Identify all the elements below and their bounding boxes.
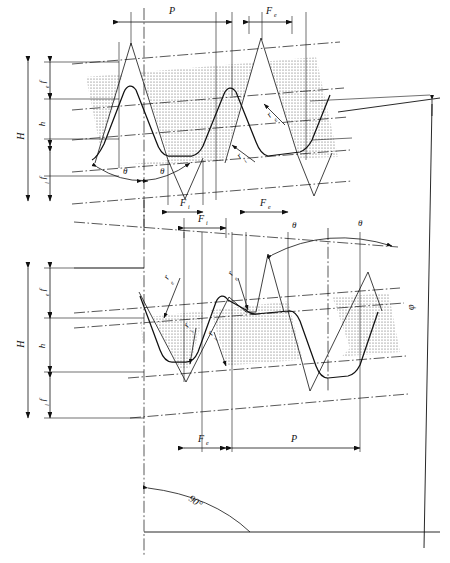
upper-profile-view: P F e F i H f e h: [15, 5, 430, 232]
label-H-top: H: [15, 132, 26, 141]
upper-dim-root-width: F i: [168, 197, 203, 212]
label-90-degrees: 90°: [187, 493, 205, 510]
upper-dim-fi: f i: [37, 152, 50, 201]
upper-dim-fe: f e: [37, 62, 50, 99]
lower-dim-root-width: F i: [184, 213, 226, 228]
lower-dim-crest-width-top: F e: [246, 197, 288, 212]
upper-dim-H: H: [15, 62, 28, 201]
label-Fe-bottom: F: [197, 433, 205, 444]
profile-diagram-svg: P F e F i H f e h: [0, 0, 450, 563]
label-fi-top-sub: i: [44, 182, 50, 184]
label-H-bottom: H: [15, 340, 26, 349]
lower-dim-fi: f i: [37, 378, 50, 418]
label-fe-bottom: f: [37, 287, 47, 291]
label-re2-bottom-sub: e: [233, 276, 240, 282]
label-fi-bottom: f: [37, 397, 47, 401]
label-fe-top: f: [37, 79, 47, 83]
label-re1-bottom: r: [161, 273, 172, 281]
label-h-top: h: [37, 121, 47, 126]
label-root-width-upper-sub: i: [206, 220, 208, 226]
taper-right-edge: [424, 104, 432, 548]
label-crest-width-lower-sub: e: [268, 204, 271, 210]
label-crest-width-lower: F: [259, 197, 267, 208]
lower-dim-P-bottom: P: [232, 433, 360, 448]
label-theta-right-top: θ: [160, 166, 165, 176]
lower-profile-view: F i F e F e P H f e: [15, 197, 408, 555]
right-angle-arc: [148, 488, 250, 532]
label-pitch-top: P: [168, 5, 175, 16]
label-crest-width-top-sub: e: [274, 12, 277, 18]
label-fe-top-sub: e: [44, 85, 50, 88]
lower-dim-Fe-bottom: F e: [184, 433, 226, 448]
upper-dim-crest-width: F e: [249, 5, 292, 22]
label-theta-left-bottom: θ: [292, 220, 297, 230]
label-root-width-top-sub: i: [188, 204, 190, 210]
lower-dim-fe: f e: [37, 268, 50, 318]
label-fe-bottom-sub: e: [44, 293, 50, 296]
taper-upper-line: [338, 98, 440, 112]
drawing-canvas: P F e F i H f e h: [0, 0, 450, 563]
label-root-width-upper: F: [197, 213, 205, 224]
lower-dim-h: h: [37, 318, 50, 372]
label-fi-bottom-sub: i: [44, 404, 50, 406]
label-re2-bottom: r: [225, 269, 236, 277]
label-root-width-top: F: [179, 197, 187, 208]
label-P-bottom: P: [290, 433, 297, 444]
label-Fe-bottom-sub: e: [206, 440, 209, 446]
upper-dim-pitch: P: [119, 5, 232, 22]
label-phi: φ: [405, 304, 416, 310]
upper-crest-ext: [249, 16, 292, 34]
label-crest-width-top: F: [265, 5, 273, 16]
label-h-bottom: h: [37, 343, 47, 348]
lower-angle-arc: [272, 238, 392, 255]
label-theta-left-top: θ: [123, 166, 128, 176]
lower-dim-H: H: [15, 268, 28, 418]
label-theta-right-bottom: θ: [358, 218, 363, 228]
